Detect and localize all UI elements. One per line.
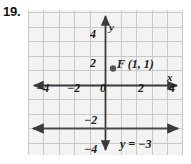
y-tick-label-neg4: −4 — [84, 143, 97, 155]
y-tick-label-pos2: 2 — [90, 57, 96, 69]
x-tick-label-pos2: 2 — [138, 82, 144, 94]
problem-number: 19. — [3, 5, 20, 19]
math-figure: 19. — [0, 0, 191, 164]
y-tick-label-pos4: 4 — [90, 28, 96, 40]
x-tick-label-pos4: 4 — [169, 82, 175, 94]
point-f-marker — [110, 65, 116, 71]
x-axis-label: x — [167, 72, 173, 83]
line-equation-label: y = −3 — [120, 138, 151, 150]
y-axis-label: y — [109, 22, 114, 33]
point-f-label: F (1, 1) — [117, 58, 154, 70]
y-tick-label-neg2: −2 — [84, 114, 97, 126]
x-tick-label-neg2: −2 — [67, 82, 80, 94]
x-tick-label-origin: 0 — [100, 82, 106, 94]
x-tick-label-neg4: −4 — [36, 82, 49, 94]
coordinate-graph: −4 −2 0 2 4 4 2 −2 −4 y x F (1, 1) y = −… — [28, 10, 183, 155]
